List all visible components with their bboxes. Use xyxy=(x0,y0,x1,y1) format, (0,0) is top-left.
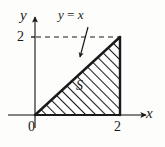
y-axis-label: y xyxy=(20,8,27,23)
y-tick-label-2: 2 xyxy=(17,30,24,44)
label-pointer-arrow xyxy=(80,27,88,57)
line-equation-operator: = xyxy=(64,7,78,22)
x-axis-label: x xyxy=(146,106,153,121)
math-figure: y x y = x S 2 0 2 xyxy=(0,0,165,147)
line-equation-label: y = x xyxy=(58,8,83,21)
region-label-s: S xyxy=(76,79,83,93)
origin-label: 0 xyxy=(28,120,35,134)
x-tick-label-2: 2 xyxy=(114,120,121,134)
line-equation-rhs: x xyxy=(78,7,84,22)
